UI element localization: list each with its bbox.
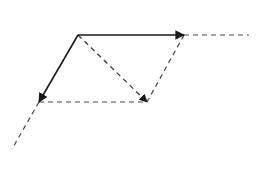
vector-b-arrow bbox=[39, 35, 78, 102]
vector-diagram bbox=[0, 0, 263, 169]
parallel-to-b-line bbox=[147, 35, 184, 102]
b-extension-line bbox=[12, 102, 39, 149]
resultant-arrow bbox=[78, 35, 147, 102]
